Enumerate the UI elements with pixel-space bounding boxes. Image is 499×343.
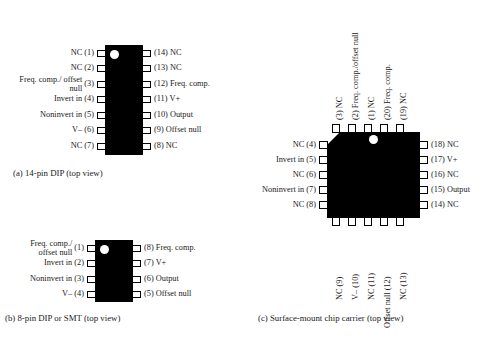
dip8-left-pin-2 (87, 260, 96, 267)
dip14-right-pin-13 (142, 65, 151, 72)
carrier-top-pin-19 (396, 124, 404, 133)
carrier-right-label-15: (15) Output (431, 185, 470, 194)
dip14-right-pin-14 (142, 50, 151, 57)
dip8-left-pin-3 (87, 276, 96, 283)
dip8-right-label-8: (8) Freq. comp. (144, 243, 196, 252)
carrier-left-pin-4 (319, 141, 328, 149)
carrier-left-label-6: NC (6) (236, 170, 316, 179)
carrier-right-label-14: (14) NC (431, 200, 458, 209)
carrier-bottom-pin-10 (348, 217, 356, 226)
carrier-top-pin-20 (380, 124, 388, 133)
dip8-left-label-1: Freq. comp./ offset null (1) (0, 238, 84, 258)
carrier-bottom-label-13: NC (13) (399, 273, 408, 300)
carrier-top-label-20: (20) Freq. comp. (383, 64, 392, 120)
pinout-figure: NC (1) NC (2) Freq. comp./ offset null (… (0, 0, 499, 343)
dip8-left-label-1-num: (1) (74, 243, 84, 252)
dip8-right-label-5: (5) Offset null (144, 289, 191, 298)
carrier-caption: (c) Surface-mount chip carrier (top view… (258, 313, 403, 323)
dip14-left-pin-7 (97, 143, 106, 150)
carrier-top-label-19: (19) NC (399, 93, 408, 120)
dip14-left-label-3: Freq. comp./ offset null (3) (0, 74, 94, 94)
dip14-right-pin-12 (142, 81, 151, 88)
dip14-left-label-3-text: Freq. comp./ offset null (16, 75, 82, 93)
carrier-left-pin-8 (319, 201, 328, 209)
carrier-right-pin-15 (419, 186, 428, 194)
dip14-left-label-2: NC (2) (0, 63, 94, 72)
dip14-right-pin-9 (142, 127, 151, 134)
dip14-right-label-13: (13) NC (154, 63, 181, 72)
carrier-bottom-pin-12 (380, 217, 388, 226)
dip8-left-pin-1 (87, 245, 96, 252)
dip14-left-label-1: NC (1) (0, 48, 94, 57)
dip14-right-label-14: (14) NC (154, 48, 181, 57)
carrier-bottom-label-9: NC (9) (335, 277, 344, 300)
dip14-right-pin-11 (142, 96, 151, 103)
dip14-pin1-dot (110, 50, 119, 59)
carrier-top-label-3: (3) NC (335, 97, 344, 120)
carrier-top-label-2: (2) Freq. comp./offset null (351, 32, 360, 120)
carrier-left-label-4: NC (4) (236, 140, 316, 149)
dip8-caption: (b) 8-pin DIP or SMT (top view) (5, 313, 120, 323)
carrier-right-label-17: (17) V+ (431, 155, 457, 164)
carrier-bottom-pin-11 (364, 217, 372, 226)
dip8-left-label-3: Noninvert in (3) (0, 274, 84, 283)
carrier-left-label-5: Invert in (5) (236, 155, 316, 164)
dip14-left-pin-3 (97, 81, 106, 88)
dip8-left-label-2: Invert in (2) (0, 258, 84, 267)
dip8-right-label-7: (7) V+ (144, 258, 166, 267)
carrier-bottom-label-10: V– (10) (351, 274, 360, 300)
carrier-right-pin-14 (419, 201, 428, 209)
dip14-left-pin-4 (97, 96, 106, 103)
dip14-right-label-9: (9) Offset null (154, 125, 201, 134)
carrier-bottom-pin-13 (396, 217, 404, 226)
carrier-right-label-16: (16) NC (431, 170, 458, 179)
dip14-right-pin-8 (142, 143, 151, 150)
dip8-left-label-4: V– (4) (0, 289, 84, 298)
dip14-right-label-8: (8) NC (154, 141, 177, 150)
dip8-right-label-6: (6) Output (144, 274, 179, 283)
carrier-left-label-8: NC (8) (236, 200, 316, 209)
dip14-left-pin-6 (97, 127, 106, 134)
dip14-left-label-4: Invert in (4) (0, 94, 94, 103)
dip14-left-label-7: NC (7) (0, 141, 94, 150)
carrier-right-label-18: (18) NC (431, 140, 458, 149)
carrier-top-pin-1 (364, 124, 372, 133)
dip8-right-pin-8 (132, 245, 141, 252)
carrier-right-pin-18 (419, 141, 428, 149)
dip14-left-pin-2 (97, 65, 106, 72)
dip14-chip-body (105, 45, 143, 155)
dip8-right-pin-6 (132, 276, 141, 283)
dip14-right-label-12: (12) Freq. comp. (154, 79, 210, 88)
dip8-right-pin-5 (132, 291, 141, 298)
dip14-left-label-6: V– (6) (0, 125, 94, 134)
carrier-right-pin-16 (419, 171, 428, 179)
dip14-left-label-5: Noninvert in (5) (0, 110, 94, 119)
carrier-top-label-1: (1) NC (367, 97, 376, 120)
carrier-bottom-pin-9 (332, 217, 340, 226)
dip14-left-pin-5 (97, 112, 106, 119)
dip8-left-label-1-text: Freq. comp./ offset null (14, 239, 72, 257)
dip14-right-label-10: (10) Output (154, 110, 193, 119)
carrier-left-pin-5 (319, 156, 328, 164)
dip8-left-pin-4 (87, 291, 96, 298)
carrier-chip-body (327, 132, 420, 218)
dip14-left-pin-1 (97, 50, 106, 57)
dip14-caption: (a) 14-pin DIP (top view) (13, 168, 103, 178)
carrier-top-pin-2 (348, 124, 356, 133)
carrier-pin1-dot (369, 135, 378, 144)
carrier-top-pin-3 (332, 124, 340, 133)
carrier-left-pin-6 (319, 171, 328, 179)
dip14-right-pin-10 (142, 112, 151, 119)
carrier-left-label-7: Noninvert in (7) (236, 185, 316, 194)
carrier-left-pin-7 (319, 186, 328, 194)
dip8-right-pin-7 (132, 260, 141, 267)
carrier-bottom-label-11: NC (11) (367, 273, 376, 300)
carrier-right-pin-17 (419, 156, 428, 164)
dip14-left-label-3-num: (3) (84, 79, 94, 88)
dip8-pin1-dot (100, 245, 109, 254)
dip14-right-label-11: (11) V+ (154, 94, 180, 103)
